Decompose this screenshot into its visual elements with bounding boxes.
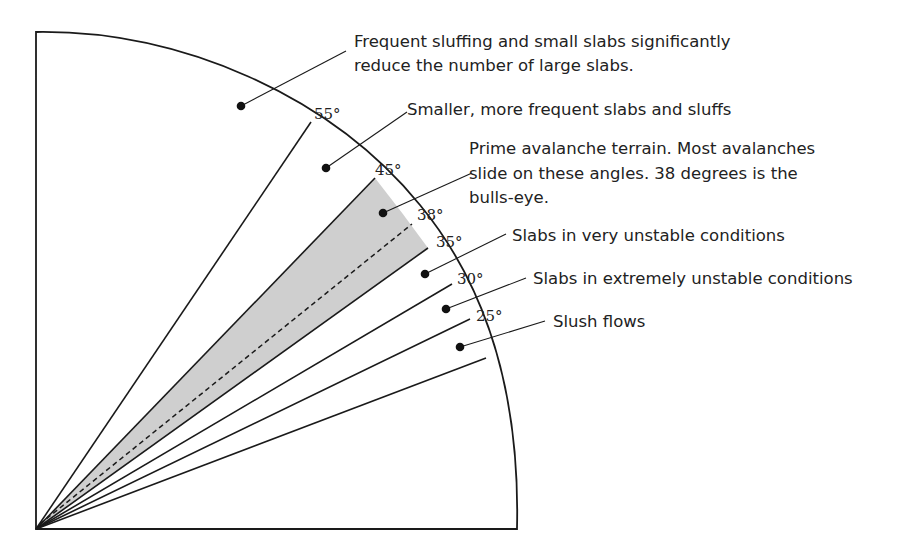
ray-45 [36, 178, 375, 529]
zone-marker-dot [421, 270, 430, 279]
angle-label-55: 55° [314, 105, 341, 123]
angle-label-25: 25° [476, 307, 503, 325]
angle-label-30: 30° [457, 270, 484, 288]
prime-terrain-zone [36, 178, 428, 529]
callout-below-25 [456, 321, 545, 351]
zone-text-below-25: Slush flows [553, 312, 645, 331]
zone-marker-dot [322, 164, 331, 173]
zone-text-above-55: Frequent sluffing and small slabs signif… [354, 32, 736, 75]
zone-text-line: slide on these angles. 38 degrees is the [469, 164, 798, 183]
zone-text-line: bulls-eye. [469, 188, 549, 207]
ray-20 [36, 358, 486, 529]
zone-text-line: Smaller, more frequent slabs and sluffs [407, 100, 731, 119]
angle-label-35: 35° [436, 233, 463, 251]
callout-above-55 [237, 51, 346, 110]
zone-marker-dot [237, 102, 246, 111]
zone-text-30-35: Slabs in very unstable conditions [512, 226, 785, 245]
zone-marker-dot [442, 305, 451, 314]
zone-text-35-45: Prime avalanche terrain. Most avalanches… [469, 139, 820, 207]
zone-text-line: reduce the number of large slabs. [354, 56, 634, 75]
leader-line [241, 51, 346, 106]
zone-text-45-55: Smaller, more frequent slabs and sluffs [407, 100, 731, 119]
zone-text-line: Slabs in very unstable conditions [512, 226, 785, 245]
zone-text-line: Prime avalanche terrain. Most avalanches [469, 139, 815, 158]
zone-text-25-30: Slabs in extremely unstable conditions [533, 269, 853, 288]
zone-text-line: Slush flows [553, 312, 645, 331]
zone-text-line: Slabs in extremely unstable conditions [533, 269, 853, 288]
ray-35 [36, 248, 428, 529]
zone-marker-dot [456, 343, 465, 352]
slope-angle-diagram: 55° 45° 38° 35° 30° 25° Frequent sluffin… [0, 0, 914, 547]
zone-text-line: Frequent sluffing and small slabs signif… [354, 32, 731, 51]
angle-label-45: 45° [375, 161, 402, 179]
zone-marker-dot [379, 209, 388, 218]
angle-label-38: 38° [417, 206, 444, 224]
